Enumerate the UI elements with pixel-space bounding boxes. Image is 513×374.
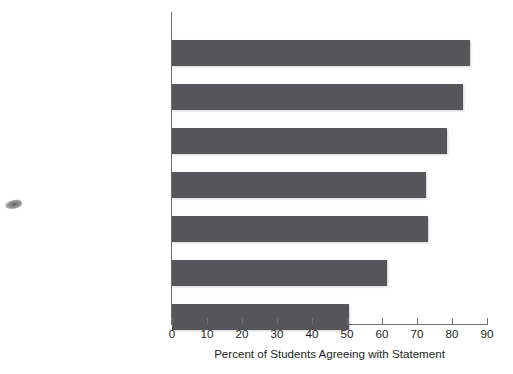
bar [172, 84, 463, 110]
bar [172, 128, 447, 154]
x-axis-title: Percent of Students Agreeing with Statem… [172, 347, 487, 360]
bar [172, 260, 387, 286]
scan-artifact-icon [4, 198, 22, 210]
bar [172, 304, 349, 330]
horizontal-bar-chart: To be able to get a better jobTo learn m… [0, 0, 513, 374]
bar [172, 172, 426, 198]
x-tick-label: 60 [362, 327, 402, 340]
bar [172, 40, 470, 66]
plot-area: To be able to get a better jobTo learn m… [172, 12, 487, 325]
x-tick-label: 70 [397, 327, 437, 340]
x-tick-label: 90 [467, 327, 507, 340]
bar [172, 216, 428, 242]
x-tick-label: 80 [432, 327, 472, 340]
